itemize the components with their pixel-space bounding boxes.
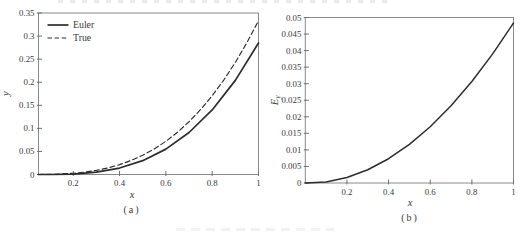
- y-tick-label: 0.01: [286, 145, 301, 155]
- subplot-caption: (a): [123, 204, 140, 216]
- x-tick-label: 1: [256, 178, 260, 188]
- plot-a-euler-vs-true: 0.20.40.60.8100.050.10.150.20.250.30.35x…: [0, 0, 270, 233]
- y-tick-label: 0.03: [286, 79, 302, 89]
- y-tick-label: 0.3: [24, 31, 36, 41]
- x-axis-label: x: [129, 189, 135, 200]
- y-tick-label: 0.1: [24, 123, 35, 133]
- y-tick-label: 0.045: [282, 29, 302, 39]
- y-tick-label: 0.05: [286, 13, 302, 23]
- y-axis-label: Ey: [270, 95, 282, 106]
- axes-frame: [305, 18, 513, 184]
- y-tick-label: 0.05: [19, 146, 35, 156]
- true-curve: [39, 21, 259, 175]
- plot-b-error: 0.20.40.60.8100.0050.010.0150.020.0250.0…: [270, 0, 526, 233]
- x-tick-label: 0.6: [160, 178, 172, 188]
- x-tick-label: 0.2: [341, 187, 352, 197]
- figure-euler-method-comparison: 0.20.40.60.8100.050.10.150.20.250.30.35x…: [0, 0, 526, 233]
- x-tick-label: 0.8: [207, 178, 219, 188]
- x-tick-label: 1: [511, 187, 515, 197]
- x-tick-label: 0.4: [383, 187, 395, 197]
- x-tick-label: 0.2: [68, 178, 79, 188]
- y-tick-label: 0.2: [24, 77, 35, 87]
- ey-curve: [305, 23, 513, 183]
- subplot-caption: (b): [401, 212, 419, 224]
- legend-label: Euler: [73, 19, 95, 30]
- y-tick-label: 0.25: [19, 54, 35, 64]
- y-tick-label: 0.015: [282, 128, 302, 138]
- x-tick-label: 0.4: [114, 178, 126, 188]
- legend-label: True: [73, 32, 92, 43]
- y-tick-label: 0.005: [282, 161, 302, 171]
- y-tick-label: 0.04: [286, 46, 302, 56]
- y-tick-label: 0.02: [286, 112, 301, 122]
- euler-curve: [39, 43, 259, 175]
- y-tick-label: 0.035: [282, 62, 302, 72]
- y-tick-label: 0.025: [282, 95, 302, 105]
- y-tick-label: 0.35: [19, 8, 35, 18]
- x-tick-label: 0.6: [425, 187, 437, 197]
- y-tick-label: 0: [30, 170, 35, 180]
- y-tick-label: 0: [297, 178, 302, 188]
- y-axis-label: y: [0, 91, 11, 97]
- y-tick-label: 0.15: [19, 100, 35, 110]
- x-axis-label: x: [407, 197, 413, 208]
- x-tick-label: 0.8: [466, 187, 478, 197]
